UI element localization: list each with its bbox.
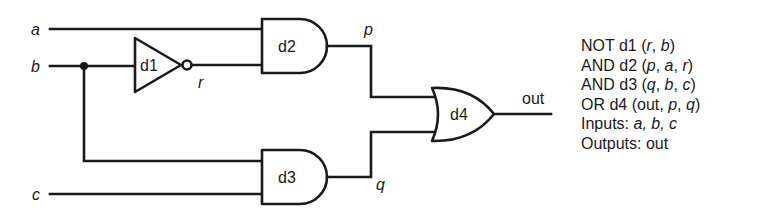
- inputs-values: a, b, c: [633, 115, 677, 132]
- input-label-a: a: [31, 21, 40, 38]
- netlist-arg: b: [665, 76, 674, 93]
- output-label-out: out: [522, 90, 545, 107]
- netlist-arg: b: [661, 37, 670, 54]
- input-label-c: c: [32, 186, 40, 203]
- netlist-arg: r: [682, 57, 687, 74]
- inputs-label: Inputs:: [581, 115, 629, 132]
- wire-b-branch: [84, 66, 262, 161]
- wire-p: [327, 46, 440, 97]
- wire-q: [327, 132, 440, 177]
- signal-label-q: q: [376, 176, 385, 193]
- netlist-arg: p: [647, 57, 656, 74]
- netlist-gate: d2: [619, 57, 637, 74]
- netlist-arg: c: [682, 76, 690, 93]
- netlist-line-1: NOT d1 (r, b): [581, 36, 700, 56]
- netlist-gate: d4: [609, 96, 627, 113]
- netlist-arg: q: [686, 96, 695, 113]
- netlist-arg: out: [637, 96, 659, 113]
- gate-d2-and: d2: [262, 19, 327, 73]
- gate-d1-not: d1: [135, 38, 192, 92]
- gate-d4-or: d4: [432, 88, 494, 141]
- signal-label-r: r: [198, 74, 204, 91]
- netlist-gate: d1: [619, 37, 637, 54]
- netlist-gate: d3: [619, 76, 637, 93]
- gate-d3-and: d3: [262, 150, 327, 204]
- netlist-inputs: Inputs: a, b, c: [581, 114, 700, 134]
- netlist-arg: r: [647, 37, 652, 54]
- netlist-line-3: AND d3 (q, b, c): [581, 75, 700, 95]
- outputs-values: out: [646, 135, 668, 152]
- outputs-label: Outputs:: [581, 135, 641, 152]
- netlist-keyword: OR: [581, 96, 605, 113]
- gate-label-d1: d1: [140, 57, 158, 74]
- gate-label-d3: d3: [278, 169, 296, 186]
- inversion-bubble-icon: [183, 61, 192, 70]
- netlist-description: NOT d1 (r, b) AND d2 (p, a, r) AND d3 (q…: [581, 36, 700, 154]
- netlist-line-2: AND d2 (p, a, r): [581, 56, 700, 76]
- netlist-keyword: AND: [581, 57, 615, 74]
- netlist-arg: q: [647, 76, 656, 93]
- input-label-b: b: [31, 58, 40, 75]
- netlist-outputs: Outputs: out: [581, 134, 700, 154]
- netlist-keyword: AND: [581, 76, 615, 93]
- netlist-line-4: OR d4 (out, p, q): [581, 95, 700, 115]
- netlist-arg: a: [665, 57, 674, 74]
- netlist-keyword: NOT: [581, 37, 614, 54]
- gate-label-d2: d2: [278, 38, 296, 55]
- netlist-arg: p: [668, 96, 677, 113]
- signal-label-p: p: [363, 21, 373, 38]
- gate-label-d4: d4: [450, 106, 468, 123]
